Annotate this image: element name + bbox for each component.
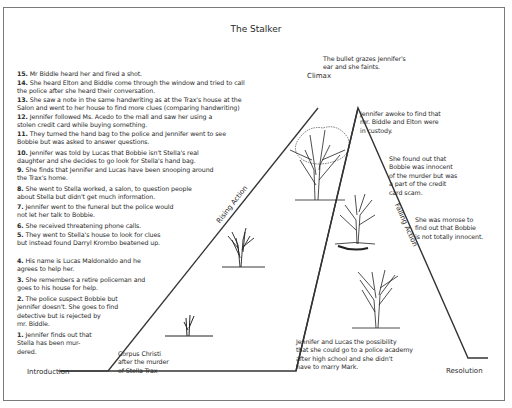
- rising-event-1: 1. Jennifer finds out that Stella has be…: [17, 331, 92, 356]
- falling-event-3: She was morose to find out that Bobbie i…: [415, 216, 483, 241]
- rising-event-9: 9. She finds that Jennifer and Lucas hav…: [17, 166, 214, 183]
- setting-text: Corpus Christi after the murder of Stell…: [118, 350, 169, 375]
- rising-event-12: 12. Jennifer followed Ms. Acedo to the m…: [17, 113, 212, 130]
- rising-event-5: 5. They went to Stella's house to look f…: [17, 231, 160, 248]
- resolution-event: Jennifer and Lucas the possibility that …: [296, 338, 413, 372]
- rising-event-7: 7. Jennifer went to the funeral but the …: [17, 203, 173, 220]
- falling-event-2: She found out that Bobbie was innocent o…: [389, 155, 457, 197]
- rising-event-4: 4. His name is Lucas Maldonaldo and he a…: [17, 257, 141, 274]
- rising-event-13: 13. She saw a note in the same handwriti…: [17, 96, 242, 113]
- rising-event-2: 2. The police suspect Bobbie but Jennife…: [17, 295, 118, 329]
- rising-event-8: 8. She went to Stella worked, a salon, t…: [17, 185, 192, 202]
- resolution-label: Resolution: [446, 367, 483, 375]
- rising-event-14: 14. She heard Elton and Biddle come thro…: [17, 79, 245, 96]
- climax-event: The bullet grazes Jennifer's ear and she…: [323, 55, 406, 72]
- rising-event-15: 15. Mr Biddle heard her and fired a shot…: [17, 70, 142, 78]
- rising-event-6: 6. She received threatening phone calls.: [17, 222, 141, 230]
- rising-event-11: 11. They turned the hand bag to the poli…: [17, 130, 226, 147]
- falling-event-1: Jennifer awoke to find that mr. Biddle a…: [360, 110, 441, 135]
- climax-label: Climax: [307, 72, 331, 80]
- rising-event-3: 3. She remembers a retire policeman and …: [17, 276, 145, 293]
- introduction-label: Introduction: [27, 368, 69, 376]
- rising-event-10: 10. Jennifer was told by Lucas that Bobb…: [17, 149, 199, 166]
